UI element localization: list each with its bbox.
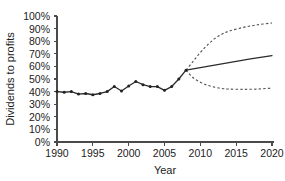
y-tick-label-90: 90% [29, 23, 50, 35]
y-axis-tick-labels: 100% 90% 80% 70% 60% 50% 40% 30% 20% 10%… [23, 10, 50, 148]
data-point-marker [127, 84, 130, 87]
y-tick-label-60: 60% [29, 60, 50, 72]
data-point-marker [170, 85, 173, 88]
data-point-marker [120, 89, 123, 92]
data-point-marker [149, 85, 152, 88]
y-tick-label-70: 70% [29, 48, 50, 60]
lower-projection-line [186, 70, 272, 89]
x-axis-tick-labels: 1990 1995 2000 2005 2010 2015 2020 [45, 147, 284, 159]
data-point-marker [63, 91, 66, 94]
dividends-to-profits-chart: Dividends to profits 100% 90% 80% 70% 60… [0, 0, 285, 181]
y-tick-label-20: 20% [29, 111, 50, 123]
x-tick-label-2010: 2010 [189, 147, 213, 159]
y-tick-label-100: 100% [23, 10, 50, 22]
data-point-marker [56, 90, 59, 93]
chart-container: Dividends to profits 100% 90% 80% 70% 60… [0, 0, 285, 181]
x-tick-label-1995: 1995 [81, 147, 105, 159]
data-point-marker [91, 93, 94, 96]
data-point-marker [177, 78, 180, 81]
data-point-marker [142, 83, 145, 86]
y-axis-title: Dividends to profits [4, 32, 16, 126]
data-point-marker [70, 90, 73, 93]
x-tick-label-2020: 2020 [260, 147, 284, 159]
y-axis-title-group: Dividends to profits [4, 32, 16, 126]
data-point-marker [185, 69, 188, 72]
y-tick-label-50: 50% [29, 73, 50, 85]
data-point-marker [99, 92, 102, 95]
x-tick-label-2005: 2005 [153, 147, 177, 159]
x-tick-label-1990: 1990 [45, 147, 69, 159]
plot-area [56, 23, 273, 96]
y-tick-label-40: 40% [29, 86, 50, 98]
central-projection-line [186, 56, 272, 70]
data-point-marker [113, 85, 116, 88]
data-point-marker [163, 89, 166, 92]
data-point-marker [106, 90, 109, 93]
data-point-marker [77, 93, 80, 96]
y-tick-label-30: 30% [29, 98, 50, 110]
y-tick-label-10: 10% [29, 123, 50, 135]
data-point-marker [156, 85, 159, 88]
x-tick-label-2015: 2015 [225, 147, 249, 159]
x-axis-title: Year [154, 164, 177, 176]
x-tick-label-2000: 2000 [117, 147, 141, 159]
y-tick-label-80: 80% [29, 35, 50, 47]
historical-series-markers [56, 69, 188, 97]
data-point-marker [84, 92, 87, 95]
data-point-marker [134, 80, 137, 83]
